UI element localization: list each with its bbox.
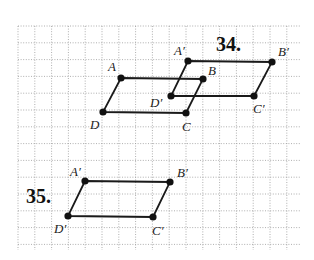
vertex-label: B bbox=[208, 63, 216, 78]
vertex-label: C′ bbox=[152, 223, 164, 238]
vertex-point bbox=[149, 213, 156, 220]
vertex-label: D′ bbox=[53, 221, 66, 236]
vertex-point bbox=[99, 108, 106, 115]
vertex-point bbox=[199, 75, 206, 82]
diagram-canvas: 34.ABCDA′B′C′D′35.A′B′C′D′ bbox=[0, 0, 314, 260]
vertex-label: C bbox=[182, 119, 191, 134]
vertex-label: A′ bbox=[173, 43, 185, 58]
vertex-point bbox=[64, 212, 71, 219]
vertex-point bbox=[268, 58, 275, 65]
vertex-point bbox=[117, 74, 124, 81]
vertex-point bbox=[250, 92, 257, 99]
vertex-label: A bbox=[107, 59, 116, 74]
vertex-point bbox=[166, 178, 173, 185]
vertex-point bbox=[184, 57, 191, 64]
vertex-label: B′ bbox=[278, 44, 289, 59]
vertex-label: D′ bbox=[149, 95, 162, 110]
vertex-label: D bbox=[89, 117, 100, 132]
figure-number: 35. bbox=[26, 185, 51, 207]
vertex-point bbox=[182, 109, 189, 116]
vertex-label: B′ bbox=[177, 165, 188, 180]
figure-number: 34. bbox=[216, 33, 241, 55]
vertex-label: A′ bbox=[69, 164, 81, 179]
vertex-point bbox=[81, 177, 88, 184]
parallelogram-shapes bbox=[64, 57, 275, 220]
dotted-grid bbox=[18, 26, 300, 250]
vertex-label: C′ bbox=[253, 101, 265, 116]
vertex-point bbox=[167, 92, 174, 99]
